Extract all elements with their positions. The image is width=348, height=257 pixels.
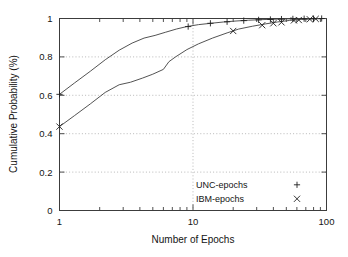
y-tick-label: 0.2 (39, 167, 52, 178)
y-tick-label: 0.6 (39, 90, 52, 101)
y-tick-label: 0.4 (39, 128, 52, 139)
legend-label-ibm-epochs: IBM-epochs (196, 194, 245, 204)
x-tick-label: 10 (188, 216, 199, 227)
x-axis-title: Number of Epochs (152, 234, 235, 245)
x-tick-label: 100 (319, 216, 335, 227)
legend-label-unc-epochs: UNC-epochs (196, 180, 248, 190)
chart-figure: 110100 00.20.40.60.81 UNC-epochsIBM-epoc… (0, 0, 348, 257)
y-axis-title: Cumulative Probability (%) (8, 55, 19, 173)
y-tick-label: 0.8 (39, 51, 52, 62)
y-tick-label: 0 (47, 205, 52, 216)
x-tick-label: 1 (57, 216, 62, 227)
cdf-plot: 110100 00.20.40.60.81 UNC-epochsIBM-epoc… (0, 0, 348, 257)
y-tick-label: 1 (47, 13, 52, 24)
